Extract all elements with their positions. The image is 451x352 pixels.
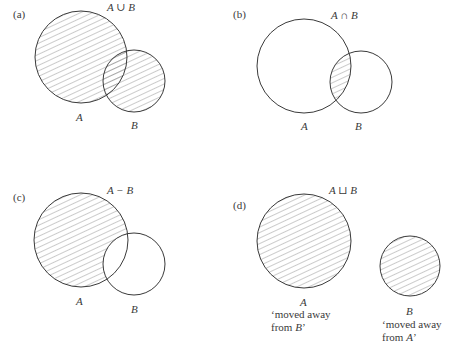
- panel-a-union: [35, 11, 165, 112]
- panel-b-set-b-label: B: [355, 120, 362, 132]
- panel-d-caption-a-line2: from B’: [271, 321, 306, 334]
- panel-d-set-b-label: B: [406, 305, 413, 317]
- panel-d-tag: (d): [233, 199, 246, 211]
- panel-d-operation-label: A ⊔ B: [329, 184, 357, 196]
- panel-d-set-a-label: A: [300, 296, 307, 308]
- panel-b-set-a-label: A: [301, 120, 308, 132]
- panel-c-set-b-label: B: [131, 303, 138, 315]
- panel-c-tag: (c): [13, 191, 25, 203]
- caption-set-variable: B: [295, 321, 302, 333]
- panel-a-set-b-label: B: [131, 119, 138, 131]
- panel-a-set-a-label: A: [76, 111, 83, 123]
- panel-b-operation-label: A ∩ B: [331, 9, 358, 21]
- caption-set-variable: A: [406, 331, 413, 343]
- panel-c-difference: [34, 193, 165, 295]
- caption-quote: ’: [413, 331, 417, 343]
- panel-c-operation-label: A − B: [107, 184, 133, 196]
- panel-d-disjoint-union: [257, 194, 440, 296]
- set-b-circle: [380, 236, 440, 296]
- caption-quote: ’: [302, 321, 306, 333]
- panel-c-set-a-label: A: [76, 295, 83, 307]
- panel-d-caption-b-line2: from A’: [382, 331, 417, 344]
- panel-d-caption-a-line1: ‘moved away: [271, 308, 331, 321]
- caption-text: from: [382, 331, 406, 343]
- panel-a-tag: (a): [13, 8, 25, 20]
- panel-b-intersection: [257, 19, 392, 113]
- venn-diagram-canvas: [0, 0, 451, 352]
- panel-d-caption-b-line1: ‘moved away: [382, 318, 442, 331]
- set-a-circle: [257, 194, 351, 288]
- panel-a-operation-label: A ∪ B: [107, 1, 135, 13]
- panel-b-tag: (b): [233, 8, 246, 20]
- caption-text: from: [271, 321, 295, 333]
